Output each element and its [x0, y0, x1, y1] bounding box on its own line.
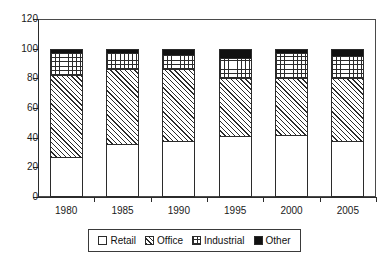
legend-label: Office [157, 236, 183, 246]
bar-1995 [219, 19, 252, 197]
y-tick-label: 0 [8, 192, 38, 202]
y-tick-label: 20 [8, 162, 38, 172]
bar-segment-office [331, 78, 364, 140]
bar-segment-retail [275, 135, 308, 197]
x-tick-label: 1985 [100, 205, 146, 216]
x-tick-label: 2000 [269, 205, 315, 216]
bar-segment-retail [219, 136, 252, 197]
bar-segment-other [331, 49, 364, 56]
legend-swatch-office-icon [145, 236, 154, 245]
y-axis: 020406080100120 [0, 0, 38, 266]
x-tick-mark [376, 197, 377, 202]
bar-1985 [106, 19, 139, 197]
bar-segment-retail [162, 141, 195, 197]
legend-swatch-industrial-icon [192, 236, 201, 245]
x-tick-label: 1990 [156, 205, 202, 216]
bar-segment-office [50, 75, 83, 157]
x-tick-mark [263, 197, 264, 202]
legend-label: Industrial [204, 236, 245, 246]
legend-swatch-other-icon [254, 236, 263, 245]
legend-swatch-retail-icon [98, 236, 107, 245]
bar-2005 [331, 19, 364, 197]
bar-segment-industrial [275, 53, 308, 78]
bar-segment-office [162, 69, 195, 140]
bar-segment-other [162, 49, 195, 55]
bar-segment-office [275, 78, 308, 134]
bar-segment-office [219, 78, 252, 136]
bar-segment-industrial [106, 53, 139, 69]
bar-segment-industrial [331, 56, 364, 78]
bar-segment-office [106, 69, 139, 143]
bar-segment-industrial [50, 53, 83, 75]
x-tick-mark [207, 197, 208, 202]
bar-1990 [162, 19, 195, 197]
legend-entry-retail: Retail [98, 236, 136, 246]
legend-entry-other: Other [254, 236, 291, 246]
bar-segment-industrial [162, 55, 195, 70]
legend-label: Other [266, 236, 291, 246]
bar-segment-other [106, 49, 139, 53]
bar-segment-retail [50, 157, 83, 197]
y-tick-label: 100 [8, 44, 38, 54]
legend-label: Retail [110, 236, 136, 246]
x-tick-mark [94, 197, 95, 202]
x-tick-label: 2005 [325, 205, 371, 216]
x-tick-mark [320, 197, 321, 202]
bar-segment-retail [106, 144, 139, 197]
bar-segment-other [219, 49, 252, 58]
legend-entry-industrial: Industrial [192, 236, 245, 246]
x-tick-label: 1995 [212, 205, 258, 216]
bar-segment-retail [331, 141, 364, 197]
y-axis-line [38, 19, 39, 198]
bar-segment-other [275, 49, 308, 53]
plot-area [38, 19, 376, 197]
bar-segment-industrial [219, 58, 252, 79]
bar-segment-other [50, 49, 83, 53]
y-tick-label: 80 [8, 73, 38, 83]
bar-1980 [50, 19, 83, 197]
bar-2000 [275, 19, 308, 197]
y-tick-label: 40 [8, 133, 38, 143]
x-tick-mark [151, 197, 152, 202]
x-tick-label: 1980 [43, 205, 89, 216]
chart-legend: RetailOfficeIndustrialOther [88, 229, 301, 252]
y-tick-label: 120 [8, 14, 38, 24]
y-tick-label: 60 [8, 103, 38, 113]
stacked-bar-chart: 020406080100120 198019851990199520002005… [0, 0, 389, 266]
legend-entry-office: Office [145, 236, 183, 246]
